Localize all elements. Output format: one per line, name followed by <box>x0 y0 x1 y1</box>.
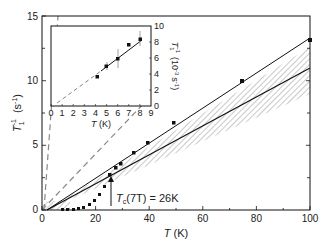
inset-x-tick-labels: 0 1 2 3 4 5 6 7 8 9 <box>48 108 153 118</box>
svg-text:5: 5 <box>104 108 109 118</box>
svg-text:20: 20 <box>90 213 102 224</box>
svg-text:9: 9 <box>148 108 153 118</box>
svg-text:0: 0 <box>32 204 38 215</box>
svg-text:1: 1 <box>60 108 65 118</box>
svg-text:15: 15 <box>27 11 39 22</box>
svg-text:10: 10 <box>154 21 164 31</box>
svg-text:60: 60 <box>197 213 209 224</box>
inset-y-axis-label: T1-1(10-3s-1) <box>169 42 181 90</box>
svg-text:4: 4 <box>154 69 159 79</box>
tc-annotation: Tc(7T) = 26K <box>116 192 179 205</box>
svg-text:4: 4 <box>93 108 98 118</box>
svg-text:40: 40 <box>144 213 156 224</box>
svg-text:8: 8 <box>154 37 159 47</box>
main-x-axis-label: T (K) <box>164 227 188 239</box>
svg-text:8: 8 <box>137 108 142 118</box>
svg-text:100: 100 <box>302 213 319 224</box>
inset-chart: 0 1 2 3 4 5 6 7 8 9 0 2 4 6 8 10 T (K) T… <box>48 21 181 129</box>
inset-x-axis-label: T (K) <box>91 119 111 129</box>
svg-text:2: 2 <box>154 85 159 95</box>
svg-text:5: 5 <box>32 139 38 150</box>
main-y-axis-label: T1-1(s-1) <box>10 94 25 132</box>
main-x-tick-labels: 0 20 40 60 80 100 <box>39 213 319 224</box>
svg-text:0: 0 <box>39 213 45 224</box>
svg-text:0: 0 <box>154 101 159 111</box>
svg-text:6: 6 <box>154 53 159 63</box>
svg-text:10: 10 <box>27 75 39 86</box>
svg-text:6: 6 <box>115 108 120 118</box>
svg-text:7: 7 <box>126 108 131 118</box>
svg-text:3: 3 <box>82 108 87 118</box>
inset-y-tick-labels: 0 2 4 6 8 10 <box>154 21 164 111</box>
chart: Tc(7T) = 26K 0 20 40 60 80 100 0 5 10 15… <box>0 0 326 249</box>
main-y-tick-labels: 0 5 10 15 <box>27 11 39 215</box>
svg-text:0: 0 <box>48 108 53 118</box>
svg-text:80: 80 <box>251 213 263 224</box>
svg-text:2: 2 <box>71 108 76 118</box>
